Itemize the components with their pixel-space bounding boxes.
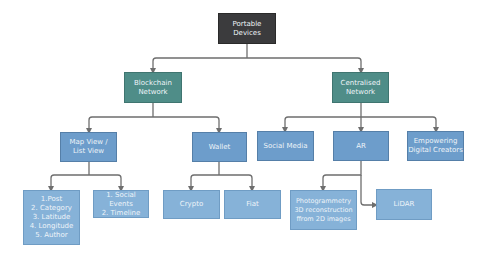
node-fiat: Fiat (224, 190, 281, 219)
connector-centralised-socialmedia (285, 117, 361, 130)
connector-root-blockchain (153, 58, 247, 71)
node-social-events-timeline: 1. Social Events 2. Timeline (93, 190, 149, 218)
connector-root-centralised (247, 58, 361, 71)
node-blockchain-network: Blockchain Network (124, 72, 182, 103)
node-photogrammetry: Photogrammetry 3D reconstruction ffrom 2… (290, 190, 357, 230)
connector-blockchain-mapview (89, 117, 153, 131)
node-lidar: LiDAR (376, 189, 432, 220)
node-portable-devices: Portable Devices (218, 13, 276, 44)
connector-mapview-postlist (51, 175, 89, 189)
connector-wallet-fiat (219, 175, 252, 189)
node-empowering-digital-creators: Empowering Digital Creators (407, 131, 464, 161)
connector-ar-photogrammetry (323, 161, 361, 189)
connector-blockchain-wallet (153, 117, 219, 131)
node-wallet: Wallet (192, 132, 247, 162)
node-map-view-list-view: Map View / List View (60, 132, 117, 162)
hierarchy-diagram: Portable Devices Blockchain Network Cent… (0, 0, 486, 258)
connector-mapview-socialevents (89, 175, 121, 189)
node-post-attributes-list: 1.Post 2. Category 3. Latitude 4. Longit… (23, 190, 80, 245)
connector-ar-lidar (361, 175, 375, 205)
node-ar: AR (333, 131, 389, 161)
connector-centralised-empowering (361, 117, 436, 130)
node-crypto: Crypto (163, 190, 220, 219)
node-social-media: Social Media (257, 131, 314, 161)
node-centralised-network: Centralised Network (332, 72, 389, 103)
connector-wallet-crypto (191, 175, 219, 189)
